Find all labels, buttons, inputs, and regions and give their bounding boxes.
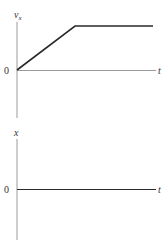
velocity-origin-label: 0 xyxy=(4,65,9,76)
velocity-t-label: t xyxy=(158,65,161,76)
velocity-curve xyxy=(17,26,153,70)
position-origin-label: 0 xyxy=(4,184,9,195)
position-y-label: x xyxy=(13,127,19,138)
position-graph: x t 0 xyxy=(4,127,161,240)
motion-graphs: vx t 0 x t 0 xyxy=(0,0,164,242)
velocity-graph: vx t 0 xyxy=(4,9,161,118)
velocity-y-label: vx xyxy=(14,9,22,22)
position-t-label: t xyxy=(158,184,161,195)
